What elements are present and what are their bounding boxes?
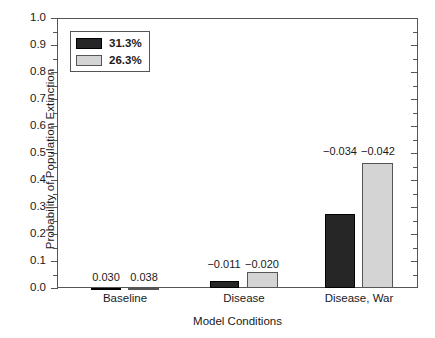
- y-tick-minor: [53, 167, 58, 168]
- y-tick-minor-right: [413, 221, 418, 222]
- y-tick-major-right: [411, 207, 418, 208]
- bar-baseline-light: [128, 288, 159, 290]
- y-tick-minor-right: [413, 32, 418, 33]
- y-tick-minor-right: [413, 248, 418, 249]
- bar-baseline-dark: [91, 288, 121, 290]
- legend-item-1: 26.3%: [76, 53, 142, 67]
- y-tick-label-0.2: 0.2: [0, 227, 46, 239]
- y-tick-label-1.0: 1.0: [0, 11, 46, 23]
- legend: 31.3% 26.3%: [70, 31, 150, 72]
- legend-label-0: 31.3%: [109, 37, 142, 49]
- y-tick-minor: [53, 275, 58, 276]
- y-tick-minor: [53, 86, 58, 87]
- legend-swatch-dark: [76, 38, 102, 49]
- y-tick-label-0.7: 0.7: [0, 92, 46, 104]
- y-tick-major-right: [411, 180, 418, 181]
- y-tick-minor: [53, 248, 58, 249]
- bar-diseasewar-dark: [325, 214, 355, 288]
- y-tick-major: [51, 18, 58, 19]
- y-tick-minor-right: [413, 59, 418, 60]
- x-tick-label-disease: Disease: [194, 292, 294, 304]
- bar-disease-light: [247, 272, 278, 288]
- legend-label-1: 26.3%: [109, 54, 142, 66]
- y-tick-label-0.4: 0.4: [0, 173, 46, 185]
- bar-value-diseasewar-light: −0.042: [348, 145, 408, 157]
- y-tick-minor: [53, 113, 58, 114]
- y-tick-minor-right: [413, 275, 418, 276]
- y-tick-major: [51, 207, 58, 208]
- y-tick-label-0.0: 0.0: [0, 281, 46, 293]
- y-tick-major: [51, 99, 58, 100]
- y-tick-minor-right: [413, 86, 418, 87]
- y-tick-major: [51, 153, 58, 154]
- x-axis-title: Model Conditions: [57, 315, 418, 327]
- y-tick-label-0.5: 0.5: [0, 146, 46, 158]
- y-tick-minor: [53, 221, 58, 222]
- y-tick-minor-right: [413, 140, 418, 141]
- legend-swatch-light: [76, 55, 102, 66]
- bar-value-disease-light: −0.020: [232, 258, 292, 270]
- y-tick-major-right: [411, 72, 418, 73]
- x-tick-label-disease-war: Disease, War: [309, 292, 409, 304]
- y-tick-minor: [53, 140, 58, 141]
- y-tick-major-right: [411, 126, 418, 127]
- y-tick-major-right: [411, 99, 418, 100]
- y-tick-label-0.8: 0.8: [0, 65, 46, 77]
- y-tick-major-right: [411, 45, 418, 46]
- y-tick-major: [51, 180, 58, 181]
- y-tick-minor: [53, 59, 58, 60]
- y-tick-major: [51, 234, 58, 235]
- y-tick-minor-right: [413, 167, 418, 168]
- y-tick-label-0.9: 0.9: [0, 38, 46, 50]
- y-tick-major-right: [411, 153, 418, 154]
- y-tick-minor: [53, 32, 58, 33]
- y-tick-minor-right: [413, 194, 418, 195]
- bar-chart-figure: Probability of Population Extinction 1.0…: [0, 0, 435, 338]
- x-tick-label-baseline: Baseline: [75, 292, 175, 304]
- y-tick-label-0.6: 0.6: [0, 119, 46, 131]
- y-tick-major-right: [411, 234, 418, 235]
- y-tick-major: [51, 261, 58, 262]
- y-tick-major-right: [411, 261, 418, 262]
- y-tick-minor-right: [413, 113, 418, 114]
- y-tick-major: [51, 126, 58, 127]
- y-tick-label-0.3: 0.3: [0, 200, 46, 212]
- y-tick-major: [51, 45, 58, 46]
- bar-diseasewar-light: [362, 163, 393, 288]
- y-tick-label-0.1: 0.1: [0, 254, 46, 266]
- y-tick-major: [51, 72, 58, 73]
- bar-value-baseline-light: 0.038: [114, 271, 174, 283]
- legend-item-0: 31.3%: [76, 36, 142, 50]
- y-tick-minor: [53, 194, 58, 195]
- y-tick-major: [51, 288, 58, 289]
- bar-disease-dark: [210, 281, 239, 288]
